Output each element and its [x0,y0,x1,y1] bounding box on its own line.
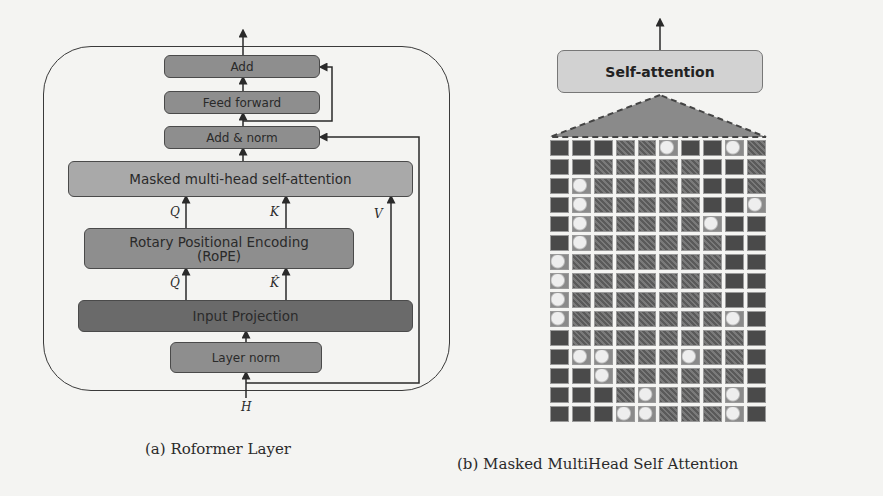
patch-cell [616,368,635,384]
patch-cell [550,292,569,308]
patch-cell [572,197,591,213]
patch-cell [572,368,591,384]
patch-cell [594,216,613,232]
patch-cell [725,406,744,422]
patch-cell [703,292,722,308]
patch-cell [638,235,657,251]
patch-cell [703,254,722,270]
patch-cell [725,216,744,232]
patch-cell [616,178,635,194]
patch-cell [616,406,635,422]
patch-cell [616,273,635,289]
patch-cell [572,349,591,365]
patch-cell [747,140,766,156]
patch-cell [594,273,613,289]
patch-cell [572,273,591,289]
patch-cell [550,349,569,365]
patch-cell [594,178,613,194]
patch-cell [725,368,744,384]
patch-cell [681,140,700,156]
patch-cell [550,330,569,346]
patch-cell [638,159,657,175]
patch-cell [747,330,766,346]
patch-cell [659,273,678,289]
patch-cell [681,235,700,251]
patch-cell [659,197,678,213]
patch-cell [659,254,678,270]
patch-cell [681,273,700,289]
patch-cell [703,387,722,403]
patch-cell [681,330,700,346]
patch-cell [594,368,613,384]
patch-cell [550,254,569,270]
patch-cell [703,140,722,156]
patch-cell [616,197,635,213]
patch-cell [681,216,700,232]
patch-cell [638,292,657,308]
patch-cell [550,406,569,422]
patch-cell [594,349,613,365]
patch-cell [572,235,591,251]
patch-cell [659,406,678,422]
patch-cell [747,368,766,384]
patch-cell [681,254,700,270]
patch-cell [725,159,744,175]
patch-cell [550,311,569,327]
patch-cell [594,140,613,156]
patch-cell [703,178,722,194]
patch-cell [616,292,635,308]
patch-cell [747,349,766,365]
patch-cell [681,292,700,308]
patch-cell [681,197,700,213]
patch-cell [594,235,613,251]
patch-cell [703,330,722,346]
patch-cell [550,273,569,289]
patch-cell [747,292,766,308]
patch-cell [616,159,635,175]
patch-cell [550,140,569,156]
patch-cell [616,216,635,232]
patch-cell [725,178,744,194]
patch-cell [659,311,678,327]
patch-cell [616,387,635,403]
patch-cell [638,197,657,213]
patch-cell [747,178,766,194]
patch-cell [725,197,744,213]
patch-cell [572,330,591,346]
patch-cell [681,349,700,365]
caption-b: (b) Masked MultiHead Self Attention [457,455,738,473]
patch-cell [572,311,591,327]
patch-cell [747,197,766,213]
patch-cell [616,140,635,156]
patch-cell [747,254,766,270]
patch-cell [572,216,591,232]
patch-cell [703,368,722,384]
patch-cell [572,292,591,308]
patch-cell [659,159,678,175]
patch-cell [659,292,678,308]
patch-cell [747,159,766,175]
patch-cell [594,254,613,270]
patch-cell [681,368,700,384]
patch-cell [594,330,613,346]
patch-cell [638,406,657,422]
patch-cell [703,197,722,213]
patch-cell [550,368,569,384]
patch-cell [725,273,744,289]
self-attention-block: Self-attention [557,50,763,93]
patch-cell [550,216,569,232]
patch-cell [659,330,678,346]
patch-cell [725,387,744,403]
patch-cell [572,254,591,270]
patch-cell [659,140,678,156]
patch-cell [725,235,744,251]
patch-cell [681,387,700,403]
patch-cell [681,178,700,194]
patch-cell [616,349,635,365]
patch-cell [725,292,744,308]
patch-cell [703,406,722,422]
patch-cell [616,311,635,327]
patch-cell [638,140,657,156]
patch-cell [594,406,613,422]
patch-cell [638,273,657,289]
